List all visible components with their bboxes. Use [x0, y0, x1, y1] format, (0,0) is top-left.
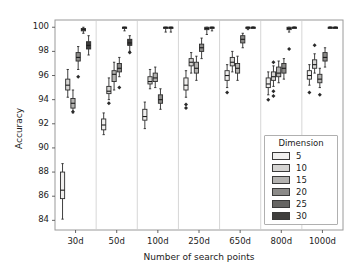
box-body [148, 77, 152, 84]
y-tick-label: 86 [19, 190, 49, 200]
box-body [107, 86, 111, 93]
box-body [277, 67, 281, 77]
legend-item-5[interactable]: 5 [265, 150, 337, 162]
box-body [307, 71, 311, 79]
legend-swatch-icon [272, 212, 290, 220]
legend-swatch-icon [272, 176, 290, 184]
box-body [128, 39, 132, 45]
x-tick-label-1000d: 1000d [297, 236, 347, 246]
box-25-1000d [328, 27, 332, 28]
legend-item-10[interactable]: 10 [265, 162, 337, 174]
legend-item-15[interactable]: 15 [265, 174, 337, 186]
box-body [117, 63, 121, 71]
box-body [153, 73, 157, 81]
box-body [230, 57, 234, 65]
box-body [313, 60, 317, 68]
y-axis-label: Accuracy [14, 108, 24, 149]
box-body [184, 78, 188, 90]
box-body [60, 172, 64, 199]
box-body [323, 53, 327, 61]
legend-label: 25 [296, 198, 307, 210]
legend-swatch-icon [272, 164, 290, 172]
box-body [76, 53, 80, 61]
legend-label: 10 [296, 162, 307, 174]
box-body [143, 109, 147, 120]
legend-swatch-icon [272, 152, 290, 160]
y-tick-label: 94 [19, 94, 49, 104]
y-tick-label: 96 [19, 70, 49, 80]
box-body [158, 95, 162, 103]
legend-label: 15 [296, 174, 307, 186]
box-body [271, 72, 275, 80]
box-body [66, 79, 70, 90]
box-body [318, 74, 322, 82]
legend-item-25[interactable]: 25 [265, 198, 337, 210]
y-tick-label: 88 [19, 166, 49, 176]
y-tick-label: 98 [19, 45, 49, 55]
y-tick-label: 100 [19, 21, 49, 31]
box-body [102, 119, 106, 130]
legend-item-20[interactable]: 20 [265, 186, 337, 198]
legend-label: 5 [296, 150, 301, 162]
box-30-800d [292, 27, 296, 28]
box-body [112, 71, 116, 82]
x-axis-label: Number of search points [55, 252, 343, 262]
legend: Dimension51015202530 [264, 135, 338, 225]
y-tick-label: 84 [19, 214, 49, 224]
box-body [194, 62, 198, 73]
legend-label: 30 [296, 210, 307, 222]
legend-swatch-icon [272, 188, 290, 196]
box-30-1000d [333, 27, 337, 28]
legend-item-30[interactable]: 30 [265, 210, 337, 222]
box-body [266, 78, 270, 88]
legend-swatch-icon [272, 200, 290, 208]
boxplot-figure: 848688909294969810030d50d100d250d650d800… [0, 0, 360, 269]
legend-label: 20 [296, 186, 307, 198]
legend-title: Dimension [265, 136, 337, 150]
box-30-650d [251, 27, 255, 28]
